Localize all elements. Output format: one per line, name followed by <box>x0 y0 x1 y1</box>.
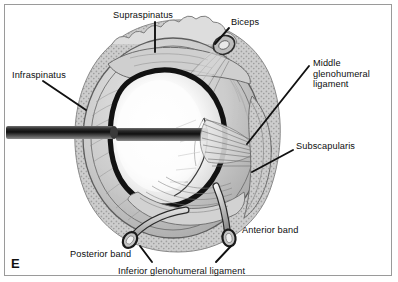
posterior-probe-rod <box>6 126 208 141</box>
panel-letter: E <box>11 256 20 271</box>
label-anterior-band: Anterior band <box>242 225 298 236</box>
leader-infraspinatus <box>43 81 86 110</box>
figure-panel: Supraspinatus Biceps Middle glenohumeral… <box>0 0 398 282</box>
label-infraspinatus: Infraspinatus <box>12 70 66 81</box>
label-posterior-band: Posterior band <box>70 249 131 260</box>
label-subscapularis: Subscapularis <box>296 141 355 152</box>
label-inferior-glenohumeral-ligament: Inferior glenohumeral ligament <box>118 266 245 277</box>
label-supraspinatus: Supraspinatus <box>113 10 173 21</box>
label-middle-glenohumeral-ligament: Middle glenohumeral ligament <box>313 58 370 90</box>
leader-inferior-glenohumeral-ligament <box>216 246 231 262</box>
label-biceps: Biceps <box>231 17 259 28</box>
